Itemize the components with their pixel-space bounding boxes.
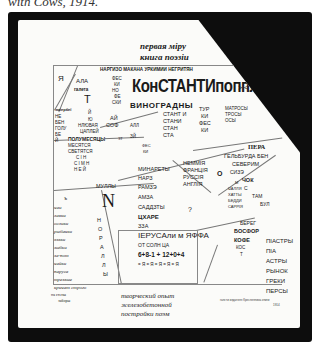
- sizz-text: СИЗЭ: [230, 170, 244, 175]
- header-line-2: книга поэзіи: [140, 53, 189, 62]
- zza-text: ЗЗА: [138, 224, 148, 230]
- footer-left-1: на стены: [51, 293, 66, 297]
- gelburda-text: ГЕЛЬБУРДА БЕН: [224, 154, 268, 160]
- vinogradny-text: ВИНОГРАДНЫ: [130, 102, 193, 110]
- footer-right-2: 1914: [273, 304, 280, 307]
- kofe-text: КОФЕ: [234, 238, 250, 244]
- galeta-text: галета: [74, 88, 88, 93]
- o-text: О: [217, 170, 222, 177]
- saadzty-text: САДДЗТЫ: [138, 205, 165, 211]
- severim-text: СЕВЕРИМ: [232, 162, 259, 168]
- footer-center-2: железобетонной: [121, 302, 172, 309]
- polumesyatsy-text: ПОЛУМЕСЯЦЫ: [68, 137, 105, 142]
- tam-text: ТАМ: [252, 194, 262, 199]
- ramze-text: РАМЗЭ: [138, 185, 157, 191]
- pera-text: ПЕРА: [248, 144, 265, 151]
- top-strip-text: НАРГИЗО МАКАНА УРКИМИИ НЕГРИТЯН: [100, 68, 193, 73]
- kos-text: КОС: [236, 246, 245, 251]
- all-text: АЛЛ: [130, 124, 139, 129]
- image-caption: with Cows, 1914.: [8, 0, 98, 10]
- chok-text: ЧОК: [242, 178, 254, 184]
- sofi-text: СОФ: [106, 123, 118, 129]
- s-text: С: [244, 186, 248, 191]
- ot-soln-text: ОТ СОЛН ЦА: [138, 243, 169, 248]
- arrows-text: > <: [238, 84, 248, 91]
- mully-text: МУЛЛЫ: [96, 184, 116, 190]
- narz-text: НАРЗ: [138, 176, 153, 182]
- t-small-text: Т: [240, 253, 243, 258]
- footer-center-3: постройки поэм: [121, 311, 169, 318]
- pattern-text: = Я = Я = Я = Я = Я: [138, 263, 179, 268]
- ai-text: АЙ: [110, 116, 118, 122]
- zy-text: ЗЙ: [130, 135, 136, 140]
- bereg-text: БЕРЕГ: [240, 221, 256, 226]
- numbers-text: 6+8-1 + 12+0+4: [138, 252, 184, 259]
- question-mark: ?: [188, 206, 192, 213]
- ala-text: АЛА: [76, 78, 88, 84]
- footer-center-1: творческий опыт: [121, 293, 174, 300]
- footer-left-2: заборы: [58, 299, 70, 303]
- ya-text: Я: [58, 75, 64, 83]
- bosfor-text: БОСФОР: [234, 229, 259, 235]
- header-line-1: первая міру: [140, 42, 186, 51]
- zt-text: ЗТ: [118, 137, 123, 141]
- bul-text: БУЛ: [260, 202, 269, 207]
- fes-text: ФЕС: [142, 144, 151, 148]
- n-big: N: [102, 192, 115, 210]
- amza-text: АМЗА: [138, 195, 153, 201]
- t-big: T: [84, 94, 91, 105]
- b-small-text: ъ: [64, 196, 67, 201]
- tshare-text: ЦХАРЕ: [138, 214, 159, 220]
- minarety-text: МИНАРЕТЫ: [138, 167, 170, 173]
- ki-text: КИ: [143, 150, 148, 154]
- footer-right-1: гансти издателя Кресленника книги: [220, 299, 269, 302]
- jerusalem-text: ІЕРУСАли м ЯФФА: [138, 232, 209, 240]
